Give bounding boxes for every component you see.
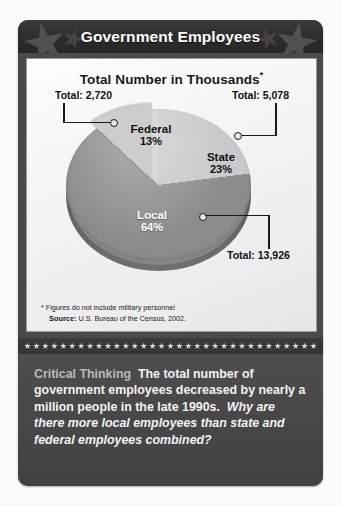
chart-panel: Total Number in Thousands* Federal 13%: [26, 58, 317, 332]
source-label: Source:: [49, 314, 77, 323]
star-icon: [283, 343, 290, 350]
slice-label-local: Local 64%: [127, 209, 177, 234]
pie-chart: Federal 13% State 23% Local 64% Total: 2…: [27, 87, 316, 293]
star-icon: [230, 343, 237, 350]
star-icon: [247, 343, 254, 350]
star-icon: [239, 343, 246, 350]
star-icon: [69, 343, 76, 350]
slice-name-local: Local: [137, 209, 167, 221]
star-icon: [140, 343, 147, 350]
star-icon: [176, 343, 183, 350]
callout-local-total: Total: 13,926: [227, 249, 290, 261]
star-icon: [274, 343, 281, 350]
star-icon: [310, 343, 317, 350]
leader-line-state-horizontal: [240, 135, 277, 137]
source-text: U.S. Bureau of the Census, 2002.: [79, 314, 186, 323]
star-icon: [42, 343, 49, 350]
star-icon: [96, 343, 103, 350]
star-icon: [194, 343, 201, 350]
leader-line-local-vertical: [268, 215, 270, 249]
star-icon: [104, 343, 111, 350]
star-icon: [212, 343, 219, 350]
leader-line-federal-horizontal: [63, 122, 111, 124]
slice-label-state: State 23%: [195, 151, 247, 176]
star-icon: [113, 343, 120, 350]
callout-federal-total: Total: 2,720: [55, 89, 112, 101]
slice-name-state: State: [207, 151, 235, 163]
leader-line-local-horizontal: [205, 215, 269, 217]
star-icon: [203, 343, 210, 350]
star-icon: [221, 343, 228, 350]
star-icon: [33, 343, 40, 350]
star-icon: [24, 343, 31, 350]
footnote-military: * Figures do not include military person…: [41, 302, 186, 313]
chart-footnotes: * Figures do not include military person…: [41, 302, 186, 324]
star-icon: [256, 343, 263, 350]
chart-title-asterisk: *: [260, 70, 264, 80]
figure-page: Government Employees Total Number in Tho…: [0, 0, 341, 506]
page-title: Government Employees: [18, 20, 323, 53]
star-icon: [51, 343, 58, 350]
slice-percent-state: 23%: [195, 163, 247, 176]
leader-dot-federal: [110, 119, 118, 127]
star-icon: [292, 343, 299, 350]
star-icon: [60, 343, 67, 350]
government-employees-card: Government Employees Total Number in Tho…: [18, 20, 323, 486]
star-icon: [122, 343, 129, 350]
leader-dot-state: [234, 132, 242, 140]
critical-thinking-text: Critical Thinking The total number of go…: [34, 366, 307, 448]
star-icon: [265, 343, 272, 350]
callout-state-total: Total: 5,078: [232, 89, 289, 101]
card-header: Government Employees: [18, 20, 323, 53]
slice-percent-local: 64%: [127, 221, 177, 234]
leader-line-state-vertical: [275, 103, 277, 136]
star-icon: [78, 343, 85, 350]
star-icon: [131, 343, 138, 350]
star-divider: [18, 338, 323, 354]
critical-thinking-section: Critical Thinking The total number of go…: [18, 354, 323, 486]
slice-name-federal: Federal: [131, 123, 172, 135]
star-icon: [149, 343, 156, 350]
source-line: Source: U.S. Bureau of the Census, 2002.: [49, 313, 186, 324]
critical-thinking-kicker: Critical Thinking: [34, 367, 131, 381]
star-icon: [167, 343, 174, 350]
star-icon: [301, 343, 308, 350]
chart-title: Total Number in Thousands*: [27, 70, 316, 87]
slice-percent-federal: 13%: [122, 135, 180, 148]
slice-label-federal: Federal 13%: [122, 123, 180, 148]
leader-line-federal-vertical: [63, 103, 65, 123]
star-icon: [185, 343, 192, 350]
star-icon: [87, 343, 94, 350]
chart-title-text: Total Number in Thousands: [80, 72, 260, 87]
star-icon: [158, 343, 165, 350]
